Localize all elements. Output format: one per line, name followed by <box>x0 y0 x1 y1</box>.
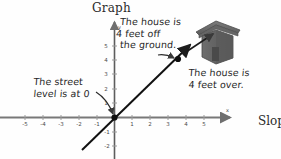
y-axis <box>112 22 117 159</box>
x-axis-label: x <box>226 107 229 113</box>
annotation-arrow-off-ground <box>158 55 174 58</box>
y-tick-label: 5 <box>100 43 112 49</box>
x-tick-label: 2 <box>144 121 156 127</box>
y-tick-label: 1 <box>100 100 112 106</box>
annotation-house-over-line2: 4 feet over. <box>188 79 249 91</box>
y-tick-label: 4 <box>100 57 112 63</box>
x-tick-label: 5 <box>198 121 210 127</box>
annotation-house-over: The house is 4 feet over. <box>187 67 250 90</box>
slope-line <box>82 45 190 150</box>
y-tick-label: -1 <box>101 129 113 135</box>
x-tick-label: 1 <box>126 121 138 127</box>
y-tick-label: -2 <box>101 143 113 149</box>
house-icon <box>196 21 240 64</box>
y-tick-label: 3 <box>100 71 112 77</box>
x-tick-label: -4 <box>37 121 49 127</box>
data-point-origin <box>111 114 117 120</box>
annotation-off-ground-line3: the ground. <box>119 39 179 51</box>
graph-screenshot: Graph Slop <box>0 0 281 159</box>
annotation-street-level-line2: level is at 0 <box>33 88 90 100</box>
x-tick-label: -3 <box>55 121 67 127</box>
y-tick-label: 2 <box>100 86 112 92</box>
annotation-street-level-line1: The street <box>33 76 91 88</box>
annotation-house-over-line1: The house is <box>188 67 250 79</box>
annotation-off-ground: The house is 4 feet off the ground. <box>117 16 181 51</box>
x-tick-label: 3 <box>162 121 174 127</box>
x-tick-label: -2 <box>73 121 85 127</box>
x-tick-label: -1 <box>91 121 103 127</box>
x-tick-label: 4 <box>180 121 192 127</box>
x-tick-label: -5 <box>19 121 31 127</box>
annotation-off-ground-line1: The house is <box>120 16 182 28</box>
annotation-off-ground-line2: 4 feet off <box>115 28 180 40</box>
annotation-street-level: The street level is at 0 <box>32 76 91 99</box>
data-point-house <box>175 56 181 62</box>
